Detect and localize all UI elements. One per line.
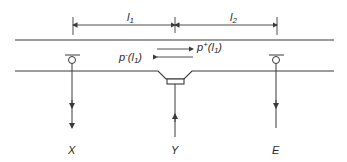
pipe [15, 40, 334, 84]
valve-icon [65, 55, 80, 128]
dimension-line [73, 17, 277, 35]
dimension-label-l2: l2 [230, 11, 237, 25]
backward-wave-label: p-(l1) [118, 50, 142, 65]
node-label-e: E [272, 144, 280, 156]
pipeline-diagram: l1 l2 p+(l1) p-(l1) X Y E [0, 0, 347, 162]
node-label-y: Y [171, 144, 179, 156]
forward-wave-label: p+(l1) [196, 40, 222, 55]
flow-arrows [157, 49, 193, 57]
dimension-label-l1: l1 [127, 11, 134, 25]
valve-icon [269, 55, 284, 128]
node-label-x: X [67, 144, 76, 156]
